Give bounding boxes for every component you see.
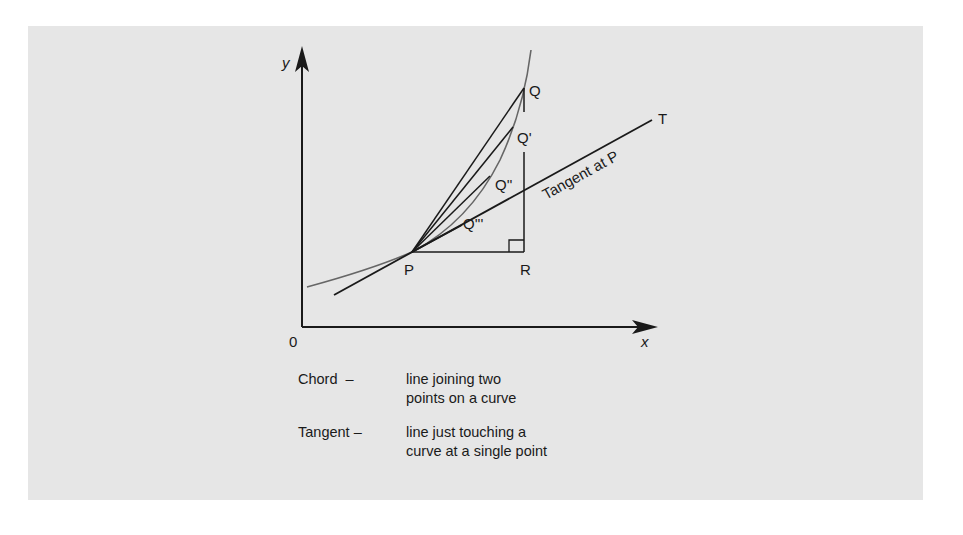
legend-definition-line: curve at a single point	[406, 442, 547, 461]
legend: Chord – line joining two points on a cur…	[298, 370, 547, 476]
legend-term: Tangent –	[298, 423, 406, 461]
right-angle-marker	[509, 240, 524, 252]
tangent-line	[334, 120, 652, 295]
point-label-Q: Q	[529, 82, 541, 99]
legend-definition-line: line just touching a	[406, 423, 547, 442]
point-label-Q-prime: Q'	[517, 129, 532, 146]
point-label-P: P	[404, 261, 414, 278]
legend-item-chord: Chord – line joining two points on a cur…	[298, 370, 547, 408]
chord-PQ2	[412, 176, 490, 252]
x-axis-label: x	[640, 333, 649, 350]
y-axis	[295, 46, 309, 327]
legend-term: Chord –	[298, 370, 406, 408]
legend-definition-line: points on a curve	[406, 389, 516, 408]
legend-definition: line joining two points on a curve	[406, 370, 516, 408]
point-label-T: T	[658, 110, 667, 127]
legend-definition: line just touching a curve at a single p…	[406, 423, 547, 461]
legend-item-tangent: Tangent – line just touching a curve at …	[298, 423, 547, 461]
point-label-Q-triple-prime: Q'''	[463, 215, 483, 232]
y-axis-label: y	[281, 54, 291, 71]
chord-PQ3	[412, 225, 462, 252]
point-label-R: R	[520, 261, 531, 278]
x-axis	[302, 320, 658, 334]
point-label-Q-double-prime: Q''	[495, 176, 513, 193]
origin-label: 0	[289, 333, 297, 350]
legend-definition-line: line joining two	[406, 370, 516, 389]
